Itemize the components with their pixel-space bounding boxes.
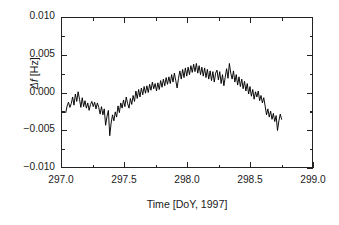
x-major-tick [250, 17, 251, 23]
x-minor-tick [156, 165, 157, 169]
x-minor-tick [93, 17, 94, 21]
x-minor-tick [156, 17, 157, 21]
x-tick-label: 299.0 [285, 175, 339, 185]
y-minor-tick [61, 36, 65, 37]
x-major-tick [250, 162, 251, 168]
x-tick-label: 297.5 [96, 175, 152, 185]
y-minor-tick [310, 149, 314, 150]
x-minor-tick [93, 165, 94, 169]
plot-frame [61, 17, 313, 168]
y-major-tick [307, 168, 313, 169]
y-major-tick [307, 93, 313, 94]
x-minor-tick [282, 165, 283, 169]
x-major-tick [124, 17, 125, 23]
x-tick-label: 297.0 [33, 175, 89, 185]
y-axis-title: Δf [Hz] [29, 38, 40, 108]
y-axis-title-text: Δf [Hz] [28, 57, 40, 89]
x-major-tick [124, 162, 125, 168]
y-minor-tick [61, 74, 65, 75]
y-major-tick [307, 55, 313, 56]
y-minor-tick [310, 36, 314, 37]
figure-container: −0.010−0.0050.0000.0050.010297.0297.5298… [0, 0, 339, 225]
x-major-tick [313, 162, 314, 168]
x-axis-title: Time [DoY, 1997] [61, 199, 313, 210]
data-line-series [62, 18, 312, 167]
y-major-tick [61, 93, 67, 94]
y-minor-tick [61, 149, 65, 150]
y-major-tick [307, 17, 313, 18]
y-tick-label: −0.005 [5, 124, 55, 134]
y-tick-label: 0.010 [5, 11, 55, 21]
x-minor-tick [282, 17, 283, 21]
x-minor-tick [219, 17, 220, 21]
y-major-tick [307, 130, 313, 131]
x-tick-label: 298.5 [222, 175, 278, 185]
y-minor-tick [310, 74, 314, 75]
x-major-tick [187, 17, 188, 23]
y-minor-tick [61, 111, 65, 112]
y-major-tick [61, 130, 67, 131]
x-major-tick [187, 162, 188, 168]
y-minor-tick [310, 111, 314, 112]
x-major-tick [61, 162, 62, 168]
y-major-tick [61, 55, 67, 56]
x-tick-label: 298.0 [159, 175, 215, 185]
x-minor-tick [219, 165, 220, 169]
y-tick-label: −0.010 [5, 162, 55, 172]
